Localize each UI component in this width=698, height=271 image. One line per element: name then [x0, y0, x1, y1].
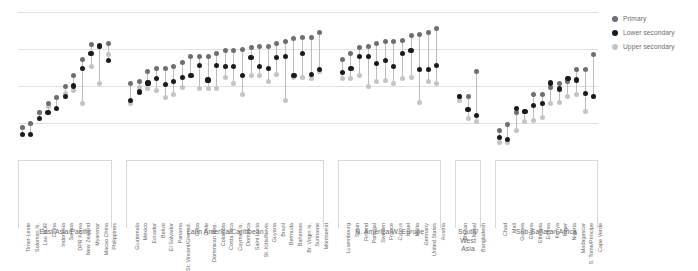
data-point-primary[interactable] — [257, 44, 262, 49]
data-point-lower[interactable] — [137, 89, 142, 94]
data-point-upper[interactable] — [565, 94, 570, 99]
data-point-upper[interactable] — [457, 98, 462, 103]
data-point-upper[interactable] — [357, 73, 362, 78]
data-point-upper[interactable] — [300, 75, 305, 80]
data-point-primary[interactable] — [540, 92, 545, 97]
data-point-upper[interactable] — [249, 73, 254, 78]
data-point-primary[interactable] — [505, 122, 510, 127]
data-point-upper[interactable] — [163, 95, 168, 100]
data-point-upper[interactable] — [309, 76, 314, 81]
data-point-upper[interactable] — [374, 79, 379, 84]
data-point-lower[interactable] — [223, 64, 228, 69]
data-point-upper[interactable] — [97, 81, 102, 86]
data-point-upper[interactable] — [409, 75, 414, 80]
data-point-upper[interactable] — [223, 75, 228, 80]
data-point-lower[interactable] — [391, 64, 396, 69]
data-point-lower[interactable] — [474, 113, 479, 118]
data-point-lower[interactable] — [171, 79, 176, 84]
data-point-upper[interactable] — [214, 86, 219, 91]
data-point-primary[interactable] — [300, 35, 305, 40]
data-point-upper[interactable] — [274, 72, 279, 77]
data-point-primary[interactable] — [383, 39, 388, 44]
data-point-upper[interactable] — [197, 86, 202, 91]
data-point-primary[interactable] — [309, 35, 314, 40]
data-point-primary[interactable] — [163, 66, 168, 71]
data-point-primary[interactable] — [154, 66, 159, 71]
data-point-upper[interactable] — [366, 84, 371, 89]
data-point-lower[interactable] — [540, 101, 545, 106]
legend-item-upper[interactable]: Upper secondary — [612, 41, 696, 52]
data-point-primary[interactable] — [197, 54, 202, 59]
data-point-upper[interactable] — [106, 52, 111, 57]
data-point-primary[interactable] — [497, 128, 502, 133]
data-point-primary[interactable] — [214, 51, 219, 56]
data-point-lower[interactable] — [465, 107, 470, 112]
data-point-primary[interactable] — [417, 32, 422, 37]
data-point-primary[interactable] — [89, 42, 94, 47]
data-point-primary[interactable] — [583, 67, 588, 72]
data-point-primary[interactable] — [28, 121, 33, 126]
data-point-upper[interactable] — [417, 100, 422, 105]
data-point-lower[interactable] — [163, 82, 168, 87]
data-point-primary[interactable] — [145, 69, 150, 74]
data-point-lower[interactable] — [205, 77, 210, 82]
data-point-primary[interactable] — [137, 79, 142, 84]
data-point-upper[interactable] — [583, 109, 588, 114]
data-point-lower[interactable] — [145, 80, 150, 85]
data-point-upper[interactable] — [257, 73, 262, 78]
data-point-lower[interactable] — [197, 63, 202, 68]
data-point-primary[interactable] — [249, 45, 254, 50]
data-point-primary[interactable] — [391, 39, 396, 44]
data-point-upper[interactable] — [497, 140, 502, 145]
data-point-lower[interactable] — [257, 64, 262, 69]
data-point-lower[interactable] — [548, 80, 553, 85]
data-point-upper[interactable] — [474, 119, 479, 124]
data-point-primary[interactable] — [466, 94, 471, 99]
data-point-primary[interactable] — [240, 47, 245, 52]
data-point-upper[interactable] — [514, 128, 519, 133]
data-point-primary[interactable] — [171, 64, 176, 69]
data-point-upper[interactable] — [574, 92, 579, 97]
data-point-primary[interactable] — [366, 44, 371, 49]
data-point-lower[interactable] — [154, 76, 159, 81]
data-point-lower[interactable] — [583, 91, 588, 96]
data-point-lower[interactable] — [97, 43, 102, 48]
data-point-lower[interactable] — [400, 51, 405, 56]
data-point-upper[interactable] — [180, 85, 185, 90]
data-point-lower[interactable] — [383, 58, 388, 63]
data-point-lower[interactable] — [408, 48, 413, 53]
data-point-primary[interactable] — [531, 92, 536, 97]
data-point-lower[interactable] — [240, 73, 245, 78]
data-point-primary[interactable] — [574, 67, 579, 72]
data-point-upper[interactable] — [383, 78, 388, 83]
data-point-upper[interactable] — [522, 119, 527, 124]
data-point-primary[interactable] — [20, 125, 25, 130]
data-point-primary[interactable] — [71, 73, 76, 78]
data-point-lower[interactable] — [231, 64, 236, 69]
data-point-lower[interactable] — [374, 61, 379, 66]
data-point-primary[interactable] — [340, 57, 345, 62]
data-point-lower[interactable] — [37, 116, 42, 121]
data-point-primary[interactable] — [206, 54, 211, 59]
data-point-lower[interactable] — [28, 132, 33, 137]
data-point-lower[interactable] — [45, 110, 50, 115]
data-point-lower[interactable] — [80, 66, 85, 71]
data-point-primary[interactable] — [46, 101, 51, 106]
data-point-upper[interactable] — [434, 81, 439, 86]
data-point-primary[interactable] — [514, 110, 519, 115]
data-point-lower[interactable] — [300, 51, 305, 56]
data-point-lower[interactable] — [63, 94, 68, 99]
data-point-lower[interactable] — [457, 94, 462, 99]
data-point-upper[interactable] — [154, 88, 159, 93]
data-point-upper[interactable] — [266, 79, 271, 84]
data-point-lower[interactable] — [88, 51, 93, 56]
data-point-lower[interactable] — [434, 63, 439, 68]
data-point-upper[interactable] — [171, 92, 176, 97]
data-point-upper[interactable] — [426, 79, 431, 84]
data-point-upper[interactable] — [466, 116, 471, 121]
data-point-lower[interactable] — [348, 66, 353, 71]
data-point-primary[interactable] — [128, 81, 133, 86]
data-point-lower[interactable] — [557, 86, 562, 91]
data-point-upper[interactable] — [89, 64, 94, 69]
data-point-primary[interactable] — [223, 48, 228, 53]
